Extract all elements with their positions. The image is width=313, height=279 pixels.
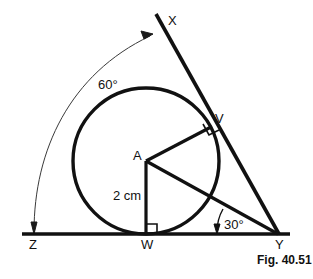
angle-label-30: 30° (224, 218, 244, 231)
angle-label-60: 60° (98, 78, 118, 91)
point-label-w: W (141, 238, 153, 251)
point-label-z: Z (29, 238, 37, 251)
radius-av (146, 127, 211, 161)
arc-arrowhead-top (141, 31, 153, 39)
arc-arrowhead-bottom (31, 222, 37, 234)
figure-caption: Fig. 40.51 (257, 254, 312, 266)
point-label-x: X (168, 14, 177, 27)
point-label-v: V (215, 112, 224, 125)
figure-canvas (0, 0, 313, 279)
point-label-y: Y (275, 238, 284, 251)
geometry-figure: X V Y W Z A 60° 30° 2 cm Fig. 40.51 (0, 0, 313, 279)
point-label-a: A (133, 149, 142, 162)
length-label-radius: 2 cm (113, 189, 141, 202)
